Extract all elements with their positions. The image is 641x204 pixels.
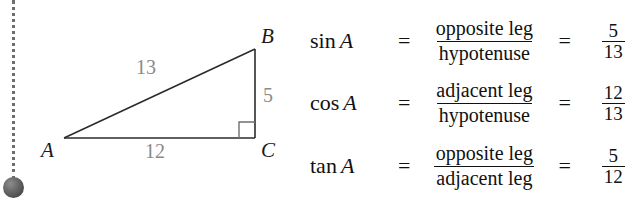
equals-sign-1-sin: = xyxy=(389,28,419,54)
formula-row-tan: tanA = opposite leg adjacent leg = 5 12 xyxy=(306,135,641,197)
equals-sign-2-cos: = xyxy=(550,90,580,116)
ratio-numerator-sin: opposite leg xyxy=(434,18,535,41)
formula-function-cos: cosA xyxy=(306,90,389,116)
value-fraction-tan: 5 12 xyxy=(586,146,641,187)
value-denominator-cos: 13 xyxy=(602,103,625,124)
ratio-fraction-cos: adjacent leg hypotenuse xyxy=(419,80,550,126)
right-angle-marker-icon xyxy=(239,122,255,138)
formula-function-tan: tanA xyxy=(306,153,389,179)
side-length-opposite: 5 xyxy=(263,85,273,105)
equals-sign-2-tan: = xyxy=(550,153,580,179)
side-length-adjacent: 12 xyxy=(145,141,165,161)
fn-word-cos: cos xyxy=(310,90,339,115)
fn-variable-cos: A xyxy=(339,90,356,115)
ratio-fraction-tan: opposite leg adjacent leg xyxy=(419,143,550,189)
value-denominator-tan: 12 xyxy=(602,166,625,187)
vertex-label-c: C xyxy=(261,140,275,161)
side-length-hypotenuse: 13 xyxy=(136,57,156,77)
vertex-label-b: B xyxy=(261,26,274,47)
ratio-denominator-cos: hypotenuse xyxy=(437,103,532,127)
triangle-svg xyxy=(0,0,300,204)
trigonometry-figure-page: A B C 13 5 12 sinA = opposite leg hypote… xyxy=(0,0,641,204)
equals-sign-1-cos: = xyxy=(389,90,419,116)
trig-ratio-formulas: sinA = opposite leg hypotenuse = 5 13 co… xyxy=(306,4,641,200)
fn-variable-sin: A xyxy=(336,28,353,53)
value-fraction-cos: 12 13 xyxy=(586,83,641,124)
value-numerator-cos: 12 xyxy=(602,83,625,103)
formula-row-cos: cosA = adjacent leg hypotenuse = 12 13 xyxy=(306,72,641,134)
value-numerator-sin: 5 xyxy=(606,21,620,41)
ratio-fraction-sin: opposite leg hypotenuse xyxy=(419,18,550,64)
fn-word-sin: sin xyxy=(310,28,336,53)
triangle-side-hypotenuse xyxy=(64,49,255,138)
value-numerator-tan: 5 xyxy=(606,146,620,166)
ratio-denominator-tan: adjacent leg xyxy=(434,166,534,190)
right-triangle-diagram: A B C 13 5 12 xyxy=(0,0,300,204)
vertex-label-a: A xyxy=(41,140,54,161)
ratio-numerator-cos: adjacent leg xyxy=(434,80,534,103)
ratio-numerator-tan: opposite leg xyxy=(434,143,535,166)
value-fraction-sin: 5 13 xyxy=(586,21,641,62)
value-denominator-sin: 13 xyxy=(602,41,625,62)
fn-word-tan: tan xyxy=(310,153,337,178)
ratio-denominator-sin: hypotenuse xyxy=(437,41,532,65)
equals-sign-2-sin: = xyxy=(550,28,580,54)
equals-sign-1-tan: = xyxy=(389,153,419,179)
formula-function-sin: sinA xyxy=(306,28,389,54)
fn-variable-tan: A xyxy=(337,153,354,178)
formula-row-sin: sinA = opposite leg hypotenuse = 5 13 xyxy=(306,10,641,72)
